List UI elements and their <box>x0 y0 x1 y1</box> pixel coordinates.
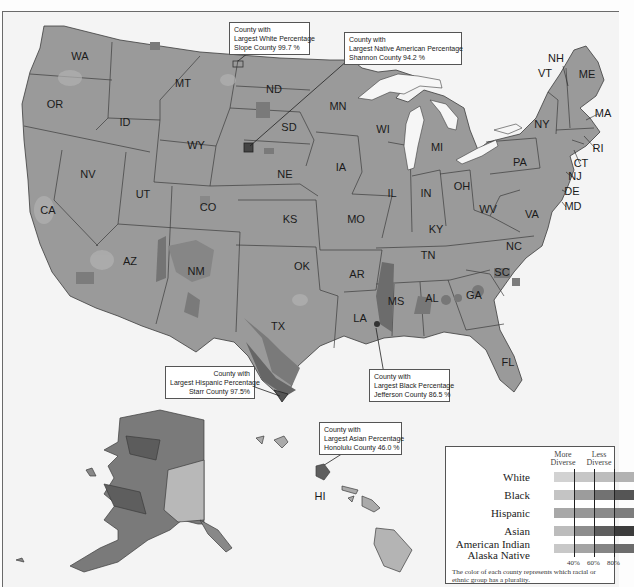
state-label-ar: AR <box>349 268 364 280</box>
callout-line: County with <box>170 369 250 378</box>
callout-largest-asian: County with Largest Asian Percentage Hon… <box>319 422 402 455</box>
legend-header-less-diverse: Less Diverse <box>582 451 616 467</box>
state-label-wv: WV <box>479 203 497 215</box>
state-label-ny: NY <box>534 118 550 130</box>
callout-line: Largest White Percentage <box>234 34 305 43</box>
state-label-mo: MO <box>347 213 365 225</box>
callout-line: County with <box>234 25 305 34</box>
legend-line-60 <box>594 469 595 557</box>
state-label-il: IL <box>387 187 396 199</box>
callout-line: Shannon County 94.2 % <box>349 53 457 62</box>
hawaii <box>256 436 412 572</box>
callout-line: County with <box>374 372 445 381</box>
legend-tick-40: 40% <box>567 559 580 567</box>
state-label-hi: HI <box>315 490 326 502</box>
state-label-tn: TN <box>421 249 436 261</box>
state-label-nd: ND <box>266 83 282 95</box>
callout-line: Largest Black Percentage <box>374 381 445 390</box>
legend-label-hispanic: Hispanic <box>491 508 530 519</box>
state-label-va: VA <box>525 208 540 220</box>
callout-line: Largest Native American Percentage <box>349 44 457 53</box>
state-label-mi: MI <box>431 141 443 153</box>
state-label-wi: WI <box>376 123 389 135</box>
state-label-ri: RI <box>593 142 604 154</box>
legend-tick-60: 60% <box>587 559 600 567</box>
state-label-tx: TX <box>271 320 286 332</box>
legend-line-80 <box>614 469 615 557</box>
state-label-sd: SD <box>281 121 296 133</box>
state-label-oh: OH <box>454 180 471 192</box>
state-label-ca: CA <box>40 204 56 216</box>
legend-note: The color of each county represents whic… <box>452 568 612 584</box>
state-label-al: AL <box>425 292 438 304</box>
state-label-de: DE <box>564 185 579 197</box>
state-label-nv: NV <box>80 168 96 180</box>
state-label-vt: VT <box>538 67 552 79</box>
state-label-sc: SC <box>494 266 509 278</box>
state-label-la: LA <box>353 312 367 324</box>
legend-label-asian: Asian <box>504 526 530 537</box>
callout-line: Largest Hispanic Percentage <box>170 378 250 387</box>
callout-largest-white: County with Largest White Percentage Slo… <box>229 22 310 55</box>
legend-line-40 <box>574 469 575 557</box>
state-label-md: MD <box>564 200 581 212</box>
state-label-in: IN <box>421 187 432 199</box>
state-label-ok: OK <box>294 260 311 272</box>
state-label-nc: NC <box>506 240 522 252</box>
state-label-mn: MN <box>329 100 346 112</box>
state-label-ct: CT <box>574 157 589 169</box>
state-shape-west <box>22 26 604 396</box>
callout-largest-hispanic: County with Largest Hispanic Percentage … <box>165 366 255 399</box>
callout-line: Slope County 99.7 % <box>234 43 305 52</box>
state-label-wa: WA <box>71 50 89 62</box>
state-label-ky: KY <box>429 223 444 235</box>
callout-line: Largest Asian Percentage <box>324 434 397 443</box>
state-label-ga: GA <box>466 289 483 301</box>
state-label-id: ID <box>120 116 131 128</box>
contiguous-us <box>22 26 604 396</box>
state-label-nj: NJ <box>568 170 581 182</box>
state-label-or: OR <box>47 98 64 110</box>
alaska <box>16 410 232 572</box>
state-label-pa: PA <box>513 156 528 168</box>
callout-line: Starr County 97.5% <box>170 387 250 396</box>
legend-header-line: Diverse <box>582 459 616 467</box>
legend-label-white: White <box>503 472 530 483</box>
legend-label-alaska-native: Alaska Native <box>467 550 530 561</box>
state-label-co: CO <box>200 201 217 213</box>
legend-label-black: Black <box>504 490 530 501</box>
state-label-fl: FL <box>502 356 515 368</box>
lake-ontario <box>494 124 522 134</box>
legend-tick-80: 80% <box>607 559 620 567</box>
state-label-me: ME <box>579 68 596 80</box>
legend: More Diverse Less Diverse White Black Hi… <box>445 446 615 584</box>
state-label-az: AZ <box>123 255 137 267</box>
state-label-nm: NM <box>187 265 204 277</box>
jefferson-county-marker <box>374 321 380 327</box>
callout-line: Jefferson County 86.5 % <box>374 390 445 399</box>
legend-header-line: Diverse <box>546 459 580 467</box>
state-label-nh: NH <box>548 52 564 64</box>
state-label-ia: IA <box>336 161 347 173</box>
callout-line: County with <box>324 425 397 434</box>
callout-line: Honolulu County 46.0 % <box>324 443 397 452</box>
state-label-ms: MS <box>388 295 405 307</box>
state-label-ut: UT <box>136 188 151 200</box>
legend-header-more-diverse: More Diverse <box>546 451 580 467</box>
state-label-ma: MA <box>595 107 612 119</box>
callout-largest-black: County with Largest Black Percentage Jef… <box>369 369 450 402</box>
callout-largest-native-american: County with Largest Native American Perc… <box>344 32 462 65</box>
state-label-wy: WY <box>187 139 205 151</box>
state-label-ne: NE <box>277 168 292 180</box>
state-label-mt: MT <box>175 77 191 89</box>
state-label-ks: KS <box>283 213 298 225</box>
callout-line: County with <box>349 35 457 44</box>
